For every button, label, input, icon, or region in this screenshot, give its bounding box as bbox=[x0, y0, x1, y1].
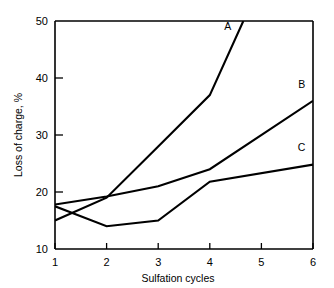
chart-background bbox=[0, 0, 334, 288]
series-label-c: C bbox=[298, 141, 306, 153]
x-tick-label-1: 1 bbox=[52, 256, 58, 268]
y-tick-label-40: 40 bbox=[36, 72, 48, 84]
y-tick-label-20: 20 bbox=[36, 186, 48, 198]
y-axis-title: Loss of charge, % bbox=[12, 93, 24, 177]
y-tick-label-30: 30 bbox=[36, 129, 48, 141]
line-chart: 50 40 30 20 10 1 2 3 4 5 6 Sulfation cyc… bbox=[0, 0, 334, 288]
series-label-a: A bbox=[224, 20, 231, 32]
series-label-b: B bbox=[298, 78, 305, 90]
x-axis-title: Sulfation cycles bbox=[142, 272, 215, 284]
x-tick-label-3: 3 bbox=[155, 256, 161, 268]
x-tick-label-5: 5 bbox=[258, 256, 264, 268]
y-tick-label-50: 50 bbox=[36, 15, 48, 27]
chart-figure: 50 40 30 20 10 1 2 3 4 5 6 Sulfation cyc… bbox=[0, 0, 334, 288]
x-tick-label-2: 2 bbox=[104, 256, 110, 268]
y-tick-label-10: 10 bbox=[36, 243, 48, 255]
x-tick-label-4: 4 bbox=[207, 256, 213, 268]
x-tick-label-6: 6 bbox=[310, 256, 316, 268]
